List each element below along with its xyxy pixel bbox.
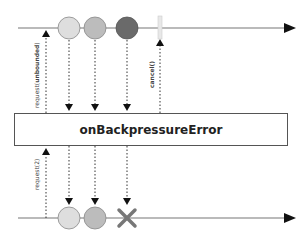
operator-name: onBackpressureError bbox=[80, 123, 223, 137]
emission-arrows-in bbox=[65, 40, 131, 111]
request-2-arrow bbox=[42, 148, 50, 218]
marble-item-2 bbox=[84, 207, 106, 229]
upstream-marbles bbox=[58, 17, 138, 39]
operator-box: onBackpressureError bbox=[14, 113, 288, 146]
request-unbounded-label: request(unbounded) bbox=[33, 42, 40, 108]
emission-arrows-out bbox=[65, 146, 131, 205]
timeline-arrow-icon bbox=[284, 213, 296, 223]
cancel-arrow bbox=[156, 39, 164, 113]
timeline-arrow-icon bbox=[284, 23, 296, 33]
marble-item-2 bbox=[84, 17, 106, 39]
request-2-label: request(2) bbox=[33, 159, 40, 190]
marble-item-1 bbox=[58, 207, 80, 229]
cancel-marker bbox=[158, 16, 162, 39]
cancel-label: cancel() bbox=[148, 61, 155, 88]
marble-item-3 bbox=[116, 17, 138, 39]
marble-item-1 bbox=[58, 17, 80, 39]
request-unbounded-arrow bbox=[42, 30, 50, 113]
